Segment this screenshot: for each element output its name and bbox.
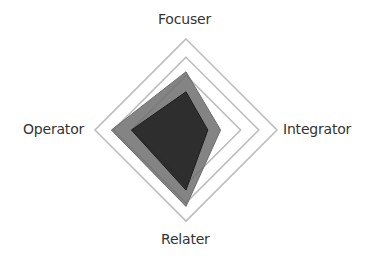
axis-label-operator: Operator [23, 122, 84, 136]
axis-label-relater: Relater [161, 232, 210, 246]
axis-label-integrator: Integrator [283, 122, 351, 136]
radar-series [111, 72, 220, 207]
axis-label-focuser: Focuser [158, 12, 211, 26]
